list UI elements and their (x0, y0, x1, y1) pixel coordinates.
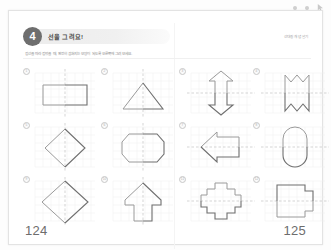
instruction-text: 점선을 따라 접었을 때, 완전히 겹쳐지는 모양이 되도록 오른쪽에 그려 보… (25, 51, 132, 56)
exercise-cell[interactable]: 3 (187, 69, 255, 117)
exercise-grid-zigzag-banner (261, 69, 329, 117)
exercise-cell[interactable]: 6 (109, 123, 177, 171)
page-number-right: 125 (283, 223, 306, 238)
page-number-left: 124 (25, 223, 48, 238)
header-divider (23, 58, 311, 59)
exercise-cell[interactable]: 2 (109, 69, 177, 117)
document-viewer: 4 선을 그려요! 선대칭 개념 알기 점선을 따라 접었을 때, 완전히 겹쳐… (0, 0, 331, 250)
chapter-number-badge: 4 (23, 27, 42, 46)
exercise-cell[interactable]: 10 (109, 177, 177, 225)
exercise-grid-stepped-rectangle (261, 177, 329, 225)
worksheet-sheet: 4 선을 그려요! 선대칭 개념 알기 점선을 따라 접었을 때, 완전히 겹쳐… (8, 10, 323, 245)
unit-meta-label: 선대칭 개념 알기 (284, 34, 308, 39)
exercise-marker: 3 (179, 68, 186, 75)
exercise-marker: 12 (253, 176, 260, 183)
exercise-marker: 7 (179, 122, 186, 129)
exercise-grid-diamond (31, 123, 99, 171)
exercise-grid-double-arrow (187, 69, 255, 117)
exercise-grid-capsule (261, 123, 329, 171)
exercise-grid-arrow-pentagon (187, 123, 255, 171)
exercise-marker: 9 (23, 176, 30, 183)
exercise-marker: 1 (23, 68, 30, 75)
exercise-cell[interactable]: 1 (31, 69, 99, 117)
exercise-cell[interactable]: 5 (31, 123, 99, 171)
exercise-grid-octagon (109, 123, 177, 171)
exercise-marker: 10 (101, 176, 108, 183)
exercise-grid-rectangle-half (31, 69, 99, 117)
page-title: 선을 그려요! (48, 32, 83, 41)
exercise-marker: 4 (253, 68, 260, 75)
exercise-cell[interactable]: 11 (187, 177, 255, 225)
exercise-cell[interactable]: 8 (261, 123, 329, 171)
exercise-grid-house-arrow (109, 177, 177, 225)
exercise-cell[interactable]: 7 (187, 123, 255, 171)
exercise-marker: 8 (253, 122, 260, 129)
exercise-marker: 11 (179, 176, 186, 183)
exercise-grid-stepped-cross (187, 177, 255, 225)
exercise-board: 1 2 (23, 61, 325, 229)
exercise-grid-triangle-half (109, 69, 177, 117)
exercise-marker: 2 (101, 68, 108, 75)
exercise-cell[interactable]: 12 (261, 177, 329, 225)
exercise-marker: 5 (23, 122, 30, 129)
exercise-grid-diamond-large (31, 177, 99, 225)
exercise-marker: 6 (101, 122, 108, 129)
exercise-cell[interactable]: 4 (261, 69, 329, 117)
exercise-cell[interactable]: 9 (31, 177, 99, 225)
unit-header-band (25, 29, 170, 44)
